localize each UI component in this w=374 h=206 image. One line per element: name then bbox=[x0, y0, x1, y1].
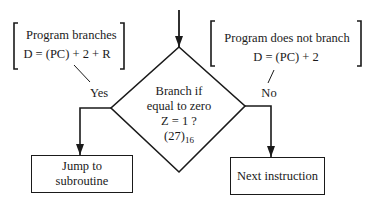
jump-to-subroutine-box: Jump to subroutine bbox=[31, 155, 133, 193]
no-leader-line bbox=[268, 70, 274, 83]
jump-box-line-1: Jump to bbox=[62, 159, 102, 174]
entry-arrow bbox=[175, 10, 183, 47]
decision-line-1: Branch if bbox=[139, 84, 219, 98]
yes-label: Yes bbox=[86, 86, 112, 100]
next-instruction-label: Next instruction bbox=[237, 169, 318, 184]
no-note-formula: D = (PC) + 2 bbox=[246, 50, 326, 64]
opcode-value: (27) bbox=[164, 129, 185, 143]
no-label: No bbox=[257, 86, 281, 100]
decision-line-2: equal to zero bbox=[134, 99, 224, 113]
no-arrow bbox=[245, 106, 275, 157]
opcode-base: 16 bbox=[185, 135, 194, 145]
decision-line-3: Z = 1 ? bbox=[139, 114, 219, 128]
yes-leader-line bbox=[74, 65, 90, 82]
next-instruction-box: Next instruction bbox=[230, 157, 325, 195]
yes-arrow bbox=[76, 108, 111, 155]
no-note-title: Program does not branch bbox=[224, 31, 350, 45]
jump-box-line-2: subroutine bbox=[56, 174, 109, 189]
decision-opcode: (27)16 bbox=[139, 129, 219, 143]
yes-note-formula: D = (PC) + 2 + R bbox=[22, 47, 112, 61]
yes-note-title: Program branches bbox=[26, 28, 116, 42]
